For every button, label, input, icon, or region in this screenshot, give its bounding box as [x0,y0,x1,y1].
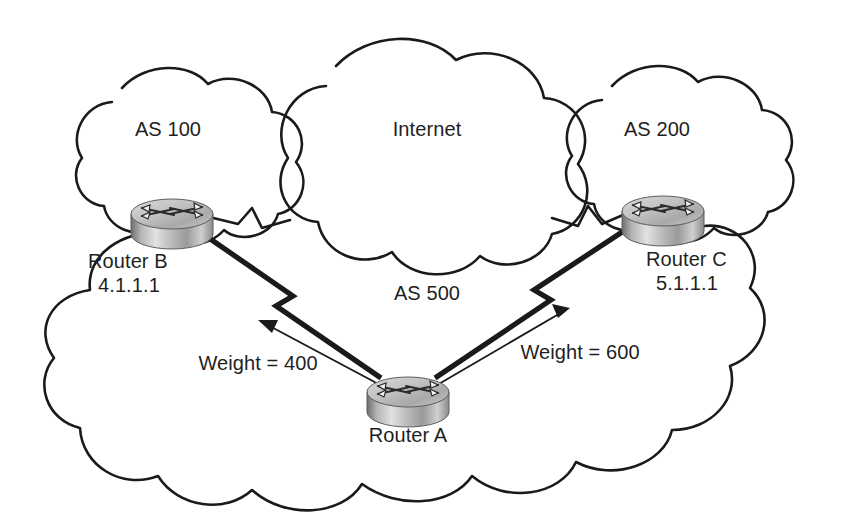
router-b-label-group: Router B 4.1.1.1 [88,250,168,297]
router-b-name: Router B [88,250,168,274]
link-a-b-weight-label: Weight = 400 [198,352,317,376]
cloud-label-as200: AS 200 [624,118,690,142]
link-a-c-weight-label: Weight = 600 [520,341,639,365]
router-a-name: Router A [369,424,448,448]
link-a-b-arrowhead [258,320,278,333]
cloud-label-internet: Internet [393,118,462,142]
router-icon-router-a[interactable] [367,377,449,427]
cloud-label-as500: AS 500 [394,282,460,306]
router-c-name: Router C [646,248,727,272]
router-c-label-group: Router C 5.1.1.1 [646,248,727,295]
cloud-internet [280,39,587,274]
router-b-ip: 4.1.1.1 [88,274,168,298]
cloud-label-as100: AS 100 [135,118,201,142]
network-diagram: AS 100 Internet AS 200 AS 500 Router B 4… [0,0,852,528]
router-c-ip: 5.1.1.1 [646,272,727,296]
internet-uplinks [205,206,630,228]
router-icon-router-c[interactable] [622,196,704,246]
router-icon-router-b[interactable] [131,199,213,249]
uplink-router-c [552,206,630,226]
